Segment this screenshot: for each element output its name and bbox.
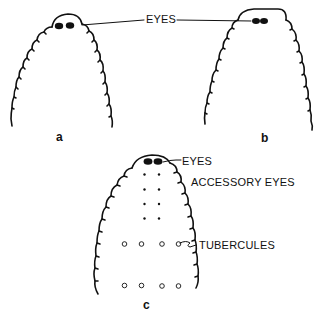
eyes-label-shared: EYES xyxy=(146,14,176,25)
eye-icon xyxy=(55,23,63,29)
eye-icon xyxy=(144,158,153,164)
diagram-canvas: EYES EYES ACCESSORY EYES TUBERCULES a b … xyxy=(0,0,318,314)
eye-icon xyxy=(260,18,268,24)
tubercules-leader xyxy=(180,242,196,248)
tubercules-label: TUBERCULES xyxy=(199,240,275,251)
accessory-eyes-group xyxy=(143,173,160,219)
eyes-leader-b xyxy=(177,20,251,21)
eyes-group xyxy=(55,18,268,165)
accessory-eyes-label: ACCESSORY EYES xyxy=(191,177,295,188)
larva-heads-illustration xyxy=(0,0,318,314)
leader-lines xyxy=(82,20,251,247)
head-outline-c xyxy=(94,155,198,294)
eye-icon xyxy=(252,18,260,24)
eyes-label-c: EYES xyxy=(182,156,212,167)
eye-icon xyxy=(154,158,163,164)
eyes-leader-c xyxy=(163,160,181,162)
eye-icon xyxy=(66,22,74,28)
panel-label-a: a xyxy=(56,131,63,143)
tubercules-group xyxy=(122,242,181,289)
head-outline-a xyxy=(11,14,112,127)
panel-label-b: b xyxy=(261,132,268,144)
eyes-leader-a xyxy=(82,20,144,25)
panel-label-c: c xyxy=(143,299,150,311)
head-outline-b xyxy=(205,9,313,130)
